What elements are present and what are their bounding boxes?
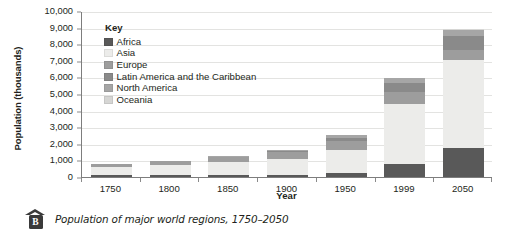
bar-segment-africa xyxy=(208,175,249,177)
figure-population-chart: Population (thousands) 01,0002,0003,0004… xyxy=(0,0,512,241)
legend-item-europe: Europe xyxy=(104,59,256,71)
y-tick-label: 7,000 xyxy=(50,57,73,66)
x-tick-mark xyxy=(433,178,434,182)
bar-2050 xyxy=(443,29,484,177)
x-tick-mark xyxy=(198,178,199,182)
bar-segment-europe xyxy=(267,152,308,159)
y-tick-label: 3,000 xyxy=(50,124,73,133)
x-tick-mark xyxy=(316,178,317,182)
x-tick-mark xyxy=(257,178,258,182)
legend-label: Asia xyxy=(117,47,136,59)
bar-segment-africa xyxy=(267,175,308,177)
x-tick-mark xyxy=(375,178,376,182)
x-tick-mark xyxy=(140,178,141,182)
bar-segment-asia xyxy=(443,60,484,147)
legend-title: Key xyxy=(104,22,256,34)
legend-rows: AfricaAsiaEuropeLatin America and the Ca… xyxy=(104,36,256,106)
bar-1850 xyxy=(208,156,249,177)
chart-area: Population (thousands) 01,0002,0003,0004… xyxy=(0,0,512,200)
y-tick-label: 4,000 xyxy=(50,107,73,116)
legend-item-asia: Asia xyxy=(104,47,256,59)
y-tick-label: 10,000 xyxy=(45,7,73,16)
legend-item-oceania: Oceania xyxy=(104,94,256,106)
legend-swatch-icon xyxy=(104,38,113,46)
legend-swatch-icon xyxy=(104,61,113,69)
y-tick-label: 6,000 xyxy=(50,74,73,83)
legend-label: Latin America and the Caribbean xyxy=(117,71,257,83)
x-axis-title: Year xyxy=(81,190,492,201)
y-tick-label: 0 xyxy=(68,173,73,182)
y-tick-label: 8,000 xyxy=(50,41,73,50)
y-tick-label: 5,000 xyxy=(50,90,73,99)
y-axis-ticks: 01,0002,0003,0004,0005,0006,0007,0008,00… xyxy=(20,12,77,178)
bar-segment-europe xyxy=(443,50,484,60)
legend-label: Oceania xyxy=(117,94,153,106)
x-tick-mark xyxy=(81,178,82,182)
legend-item-africa: Africa xyxy=(104,36,256,48)
x-tick-mark xyxy=(491,178,492,182)
legend-item-latin-america-and-the-caribbean: Latin America and the Caribbean xyxy=(104,71,256,83)
bar-1750 xyxy=(91,164,132,177)
bar-segment-asia xyxy=(208,162,249,175)
legend-swatch-icon xyxy=(104,49,113,57)
legend-swatch-icon xyxy=(104,84,113,92)
bar-segment-asia xyxy=(91,167,132,175)
legend: Key AfricaAsiaEuropeLatin America and th… xyxy=(104,22,256,106)
bar-segment-latin-america-and-the-caribbean xyxy=(443,36,484,49)
bar-segment-latin-america-and-the-caribbean xyxy=(384,83,425,91)
bar-1900 xyxy=(267,150,308,177)
bar-1999 xyxy=(384,78,425,177)
bar-segment-africa xyxy=(150,175,191,177)
legend-swatch-icon xyxy=(104,96,113,104)
bar-segment-africa xyxy=(384,164,425,177)
y-tick-label: 2,000 xyxy=(50,140,73,149)
caption-text: Population of major world regions, 1750–… xyxy=(55,213,288,225)
bar-segment-asia xyxy=(384,104,425,164)
legend-label: Europe xyxy=(117,59,148,71)
y-tick-label: 1,000 xyxy=(50,157,73,166)
legend-swatch-icon xyxy=(104,73,113,81)
bar-segment-europe xyxy=(384,92,425,104)
caption-marker-letter: B xyxy=(29,215,43,229)
bar-segment-asia xyxy=(326,150,367,173)
y-tick-label: 9,000 xyxy=(50,24,73,33)
bar-segment-africa xyxy=(91,175,132,177)
bar-segment-africa xyxy=(326,173,367,177)
legend-label: Africa xyxy=(117,36,142,48)
caption-marker-icon: B xyxy=(25,209,46,230)
bar-segment-europe xyxy=(326,141,367,150)
bar-segment-asia xyxy=(267,159,308,175)
legend-item-north-america: North America xyxy=(104,82,256,94)
bar-segment-asia xyxy=(150,165,191,176)
bar-1800 xyxy=(150,161,191,177)
legend-label: North America xyxy=(117,82,178,94)
bar-1950 xyxy=(326,135,367,177)
bar-segment-africa xyxy=(443,148,484,177)
figure-caption: B Population of major world regions, 175… xyxy=(0,202,512,241)
